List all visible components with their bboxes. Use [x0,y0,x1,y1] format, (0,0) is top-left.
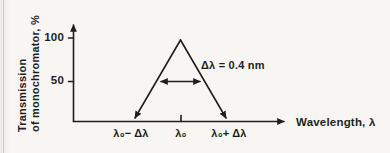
y-axis-title-line2: of monochromator, % [29,2,42,132]
x-axis-title: Wavelength, λ [296,116,376,128]
x-tick-label-lambda0-plus-delta: λ₀+ Δλ [194,127,264,139]
monochromator-transmission-figure: Transmission of monochromator, % 100 50 … [0,0,390,153]
triangle-right-slope [181,40,227,118]
y-tick-label-50: 50 [38,74,64,86]
triangle-left-slope [135,40,181,118]
y-tick-label-100: 100 [38,31,64,43]
bandwidth-annotation: Δλ = 0.4 nm [201,59,265,71]
y-axis-title: Transmission of monochromator, % [16,2,42,132]
y-axis-title-line1: Transmission [16,2,29,132]
